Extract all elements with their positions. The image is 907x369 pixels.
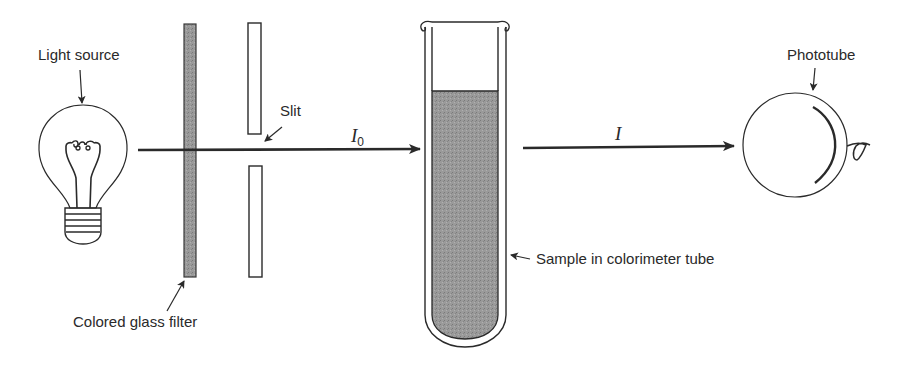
phototube-icon xyxy=(743,93,870,197)
transmitted-beam-arrow xyxy=(523,146,734,148)
slit-label: Slit xyxy=(280,102,301,119)
light-source-pointer xyxy=(80,70,82,103)
phototube-label: Phototube xyxy=(787,46,855,63)
incident-intensity-label: I0 xyxy=(351,125,364,147)
incident-beam-arrow xyxy=(138,149,420,150)
slit-pointer xyxy=(265,127,282,141)
filter-label: Colored glass filter xyxy=(73,313,197,330)
sample-label: Sample in colorimeter tube xyxy=(536,250,714,267)
slit-plate-top xyxy=(248,23,261,134)
colorimeter-diagram: Light source Slit I0 I Sample in colorim… xyxy=(0,0,907,369)
colorimeter-tube-icon xyxy=(421,21,509,347)
transmitted-intensity-label: I xyxy=(615,123,621,145)
light-bulb-icon xyxy=(39,105,127,244)
sample-pointer xyxy=(511,255,530,259)
incident-intensity-subscript: 0 xyxy=(357,135,364,149)
phototube-pointer xyxy=(813,68,815,90)
light-source-label: Light source xyxy=(38,46,120,63)
slit-plate-bottom xyxy=(249,166,262,277)
filter-pointer xyxy=(167,281,184,311)
